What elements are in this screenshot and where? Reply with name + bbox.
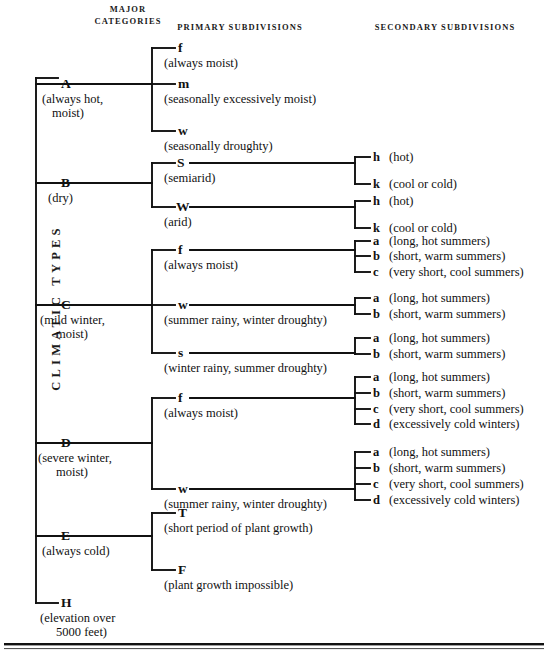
node-Cwb-code: b — [373, 308, 384, 320]
node-Am-code: m — [178, 77, 189, 91]
node-B-code: B — [61, 176, 70, 190]
node-D-desc-1: (severe winter, — [38, 452, 112, 466]
node-ET-desc: (short period of plant growth) — [164, 522, 313, 536]
node-Dfa: a(long, hot summers) — [373, 371, 490, 383]
node-Cfb-desc: (short, warm summers) — [384, 250, 505, 262]
node-Dfb-code: b — [373, 387, 384, 399]
node-BW-code: W — [176, 200, 190, 214]
node-H-desc-2: 5000 feet) — [56, 626, 107, 640]
node-BSk: k(cool or cold) — [373, 178, 457, 190]
node-Cwa-code: a — [373, 292, 384, 304]
node-Cf-desc: (always moist) — [164, 259, 238, 273]
node-Dwa-desc: (long, hot summers) — [384, 446, 490, 458]
node-Af-desc: (always moist) — [164, 57, 238, 71]
node-Dwd-code: d — [373, 494, 384, 506]
node-A-desc-1: (always hot, — [42, 93, 103, 107]
node-Csa-desc: (long, hot summers) — [384, 332, 490, 344]
node-E-code: E — [61, 529, 70, 543]
node-Cfc-code: c — [373, 266, 384, 278]
node-A-code: A — [61, 77, 71, 91]
node-Af-code: f — [178, 41, 183, 55]
node-EF-code: F — [178, 563, 186, 577]
node-Dfa-code: a — [373, 371, 384, 383]
node-ET-code: T — [178, 506, 187, 520]
node-Cfc: c(very short, cool summers) — [373, 266, 524, 278]
node-Dfa-desc: (long, hot summers) — [384, 371, 490, 383]
node-Dw-desc: (summer rainy, winter droughty) — [164, 498, 327, 512]
node-Dwc: c(very short, cool summers) — [373, 478, 524, 490]
node-E-desc-1: (always cold) — [42, 545, 110, 559]
node-Cs-code: s — [178, 346, 183, 360]
node-H-code: H — [61, 596, 72, 610]
node-Aw-desc: (seasonally droughty) — [164, 140, 273, 154]
node-Dwb-desc: (short, warm summers) — [384, 462, 505, 474]
node-Dwc-code: c — [373, 478, 384, 490]
node-C-code: C — [61, 298, 71, 312]
node-BS-desc: (semiarid) — [164, 172, 215, 186]
node-Aw-code: w — [178, 124, 188, 138]
node-Cfc-desc: (very short, cool summers) — [384, 266, 524, 278]
node-Cwa-desc: (long, hot summers) — [384, 292, 490, 304]
node-Dwd-desc: (excessively cold winters) — [384, 494, 520, 506]
node-Df-desc: (always moist) — [164, 407, 238, 421]
node-Dfb-desc: (short, warm summers) — [384, 387, 505, 399]
node-BWh: h(hot) — [373, 195, 413, 207]
node-BSk-desc: (cool or cold) — [384, 178, 457, 190]
node-Cfb-code: b — [373, 250, 384, 262]
node-BSh-code: h — [373, 151, 384, 163]
node-Dwd: d(excessively cold winters) — [373, 494, 520, 506]
node-H-desc-1: (elevation over — [40, 612, 115, 626]
node-Cw-desc: (summer rainy, winter droughty) — [164, 314, 327, 328]
node-Dwb: b(short, warm summers) — [373, 462, 505, 474]
bottom-rule — [4, 643, 544, 649]
node-BSh: h(hot) — [373, 151, 413, 163]
node-Dwc-desc: (very short, cool summers) — [384, 478, 524, 490]
node-Dwb-code: b — [373, 462, 384, 474]
node-Csa: a(long, hot summers) — [373, 332, 490, 344]
node-A-desc-2: moist) — [52, 107, 84, 121]
node-Dfc-desc: (very short, cool summers) — [384, 403, 524, 415]
node-Dfd-desc: (excessively cold winters) — [384, 418, 520, 430]
node-Cfa-desc: (long, hot summers) — [384, 235, 490, 247]
node-Cwb: b(short, warm summers) — [373, 308, 505, 320]
node-D-code: D — [61, 436, 71, 450]
header-primary: PRIMARY SUBDIVISIONS — [150, 22, 330, 32]
node-BSh-desc: (hot) — [384, 151, 413, 163]
node-C-desc-2: moist) — [56, 328, 88, 342]
node-Cw-code: w — [178, 298, 188, 312]
node-Csb-code: b — [373, 348, 384, 360]
node-Csb: b(short, warm summers) — [373, 348, 505, 360]
node-Cf-code: f — [178, 243, 183, 257]
node-BWh-desc: (hot) — [384, 195, 413, 207]
node-Am-desc: (seasonally excessively moist) — [164, 93, 316, 107]
node-Cfa-code: a — [373, 235, 384, 247]
node-BS-code: S — [177, 156, 185, 170]
node-Dfc: c(very short, cool summers) — [373, 403, 524, 415]
node-Dwa-code: a — [373, 446, 384, 458]
node-BSk-code: k — [373, 178, 384, 190]
node-Cs-desc: (winter rainy, summer droughty) — [164, 362, 327, 376]
node-EF-desc: (plant growth impossible) — [164, 579, 293, 593]
node-Cwa: a(long, hot summers) — [373, 292, 490, 304]
node-BWk-code: k — [373, 222, 384, 234]
node-BWh-code: h — [373, 195, 384, 207]
node-D-desc-2: moist) — [56, 466, 88, 480]
node-B-desc-1: (dry) — [48, 192, 73, 206]
node-Dfd: d(excessively cold winters) — [373, 418, 520, 430]
node-Dfc-code: c — [373, 403, 384, 415]
node-Df-code: f — [178, 391, 183, 405]
header-secondary: SECONDARY SUBDIVISIONS — [340, 22, 548, 32]
node-Cwb-desc: (short, warm summers) — [384, 308, 505, 320]
header-major-line1: MAJOR — [78, 4, 178, 14]
node-BWk: k(cool or cold) — [373, 222, 457, 234]
node-BW-desc: (arid) — [164, 216, 192, 230]
node-Dw-code: w — [178, 482, 188, 496]
node-Dfd-code: d — [373, 418, 384, 430]
node-Csb-desc: (short, warm summers) — [384, 348, 505, 360]
node-Csa-code: a — [373, 332, 384, 344]
node-BWk-desc: (cool or cold) — [384, 222, 457, 234]
node-Dwa: a(long, hot summers) — [373, 446, 490, 458]
node-Dfb: b(short, warm summers) — [373, 387, 505, 399]
node-Cfa: a(long, hot summers) — [373, 235, 490, 247]
node-Cfb: b(short, warm summers) — [373, 250, 505, 262]
